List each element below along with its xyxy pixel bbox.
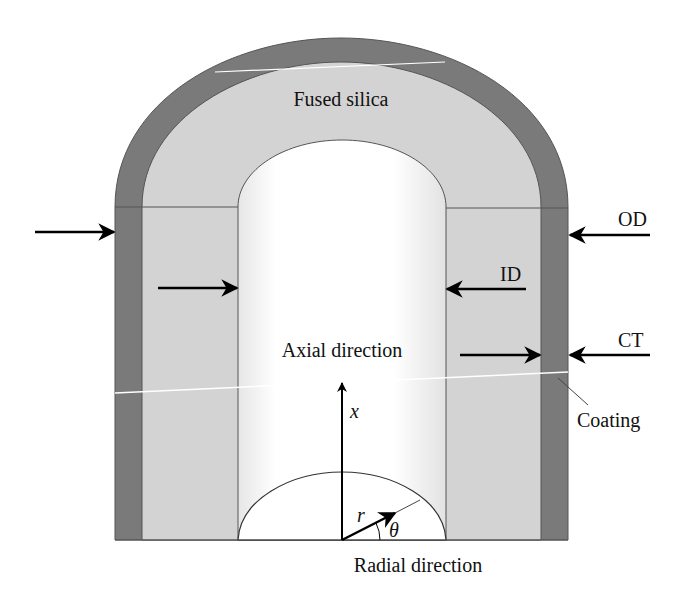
label-fused-silica: Fused silica [294,88,389,110]
label-r: r [357,504,365,526]
label-radial-direction: Radial direction [354,554,482,576]
fiber-cross-section-diagram: Fused silica Axial direction Radial dire… [0,0,687,594]
label-axial-direction: Axial direction [282,339,403,361]
label-x-axis: x [349,400,359,422]
label-coating: Coating [577,409,640,432]
label-ct: CT [618,329,644,351]
label-theta: θ [389,519,399,541]
label-id: ID [500,263,521,285]
label-od: OD [618,208,647,230]
